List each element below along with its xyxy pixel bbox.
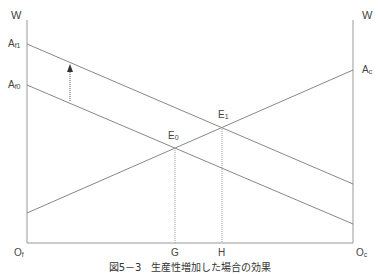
e0-label: E0: [168, 131, 179, 141]
demand-line-f0: [27, 85, 353, 224]
e1-label: E1: [218, 110, 229, 120]
af0-label: Af0: [8, 80, 21, 90]
right-w-label: W: [362, 10, 372, 21]
af1-label: Af1: [8, 39, 21, 49]
g-label: G: [171, 248, 179, 258]
h-label: H: [218, 248, 225, 258]
demand-line-c: [27, 70, 353, 213]
left-origin-label: Of: [14, 248, 24, 258]
ac-label: Ac: [362, 65, 372, 75]
arrow-up-icon: [67, 64, 73, 72]
right-origin-label: Oc: [356, 248, 367, 258]
figure-caption: 図5－3 生産性増加した場合の効果: [0, 259, 380, 274]
left-w-label: W: [11, 10, 21, 21]
demand-line-f1: [27, 44, 353, 184]
